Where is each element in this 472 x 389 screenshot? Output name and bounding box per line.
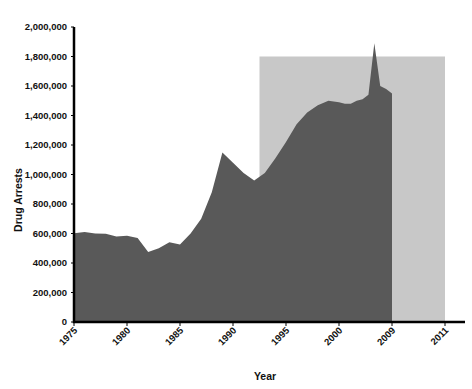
x-tick-label: 2009	[375, 325, 398, 348]
x-tick-label: 1975	[57, 324, 80, 347]
chart-canvas: 0200,000400,000600,000800,0001,000,0001,…	[0, 0, 472, 389]
y-tick-label: 2,000,000	[25, 21, 67, 32]
y-tick-label: 1,200,000	[25, 139, 67, 150]
y-tick-label: 200,000	[33, 287, 67, 298]
y-tick-label: 0	[62, 316, 67, 327]
y-tick-label: 1,000,000	[25, 169, 67, 180]
y-tick-label: 1,400,000	[25, 110, 67, 121]
x-tick-label: 1985	[163, 324, 186, 347]
x-tick-label: 1995	[269, 324, 292, 347]
y-tick-label: 800,000	[33, 198, 67, 209]
y-tick-label: 1,800,000	[25, 51, 67, 62]
y-tick-label: 400,000	[33, 257, 67, 268]
y-axis-title: Drug Arrests	[12, 168, 24, 232]
y-tick-labels: 0200,000400,000600,000800,0001,000,0001,…	[25, 21, 67, 327]
y-tick-label: 600,000	[33, 228, 67, 239]
drug-arrests-area-chart: 0200,000400,000600,000800,0001,000,0001,…	[0, 0, 472, 389]
x-tick-label: 1990	[216, 325, 239, 348]
x-tick-labels: 19751980198519901995200020092011	[57, 324, 451, 347]
y-tick-label: 1,600,000	[25, 80, 67, 91]
x-tick-label: 2000	[322, 325, 345, 348]
x-tick-label: 1980	[110, 325, 133, 348]
x-tick-label: 2011	[428, 324, 451, 347]
x-axis-title: Year	[254, 370, 276, 382]
